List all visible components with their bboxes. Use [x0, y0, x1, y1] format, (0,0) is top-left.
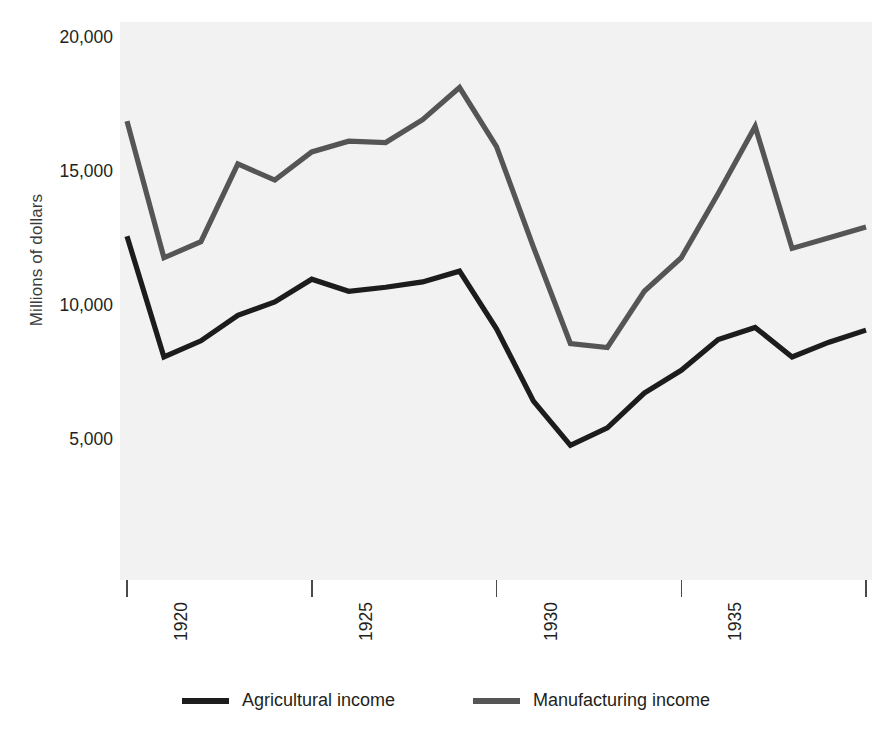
line-chart-figure: Millions of dollars 20,00015,00010,0005,… — [0, 0, 892, 734]
legend-item[interactable]: Agricultural income — [182, 690, 395, 711]
legend-label: Agricultural income — [242, 690, 395, 711]
x-axis-ticks: 19201925193019351940 — [0, 580, 892, 680]
x-tick-mark — [311, 580, 313, 597]
y-tick-label: 10,000 — [21, 295, 113, 316]
legend-line-swatch — [182, 698, 229, 704]
legend-line-swatch — [473, 698, 520, 704]
y-tick-label: 20,000 — [21, 27, 113, 48]
x-tick-label: 1925 — [356, 602, 377, 672]
chart-legend: Agricultural incomeManufacturing income — [0, 690, 892, 711]
series-line-2 — [127, 88, 866, 348]
x-tick-mark — [865, 580, 867, 597]
plot-area — [120, 22, 872, 580]
x-tick-mark — [496, 580, 498, 597]
legend-item[interactable]: Manufacturing income — [473, 690, 710, 711]
y-tick-label: 15,000 — [21, 161, 113, 182]
x-tick-label: 1930 — [541, 602, 562, 672]
x-tick-label: 1935 — [725, 602, 746, 672]
series-line-1 — [127, 236, 866, 445]
plot-lines — [120, 22, 872, 580]
x-tick-label: 1920 — [171, 602, 192, 672]
x-tick-mark — [126, 580, 128, 597]
x-tick-mark — [681, 580, 683, 597]
legend-label: Manufacturing income — [533, 690, 710, 711]
y-tick-label: 5,000 — [21, 429, 113, 450]
